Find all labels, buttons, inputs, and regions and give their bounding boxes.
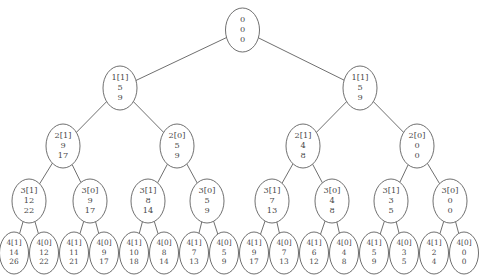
tree-node[interactable]: 3[0]48 [315,179,349,223]
tree-node[interactable]: 4[0]917 [90,232,119,274]
tree-node[interactable]: 1[1]59 [103,66,137,110]
node-label-value2: 8 [300,150,305,160]
tree-edge [321,221,326,234]
node-label-level: 3[1] [140,185,157,195]
tree-edge [282,164,293,183]
node-label-level: 4[0] [96,238,111,247]
node-label-value1: 10 [129,248,139,257]
tree-node[interactable]: 000 [226,8,260,52]
tree-node[interactable]: 3[1]1222 [12,179,46,223]
node-label-value1: 11 [69,248,78,257]
node-label-value2: 9 [117,92,122,102]
tree-node[interactable]: 4[1]1426 [0,232,29,274]
tree-node[interactable]: 4[1]612 [300,232,329,274]
tree-node[interactable]: 3[1]35 [374,179,408,223]
tree-node[interactable]: 4[1]24 [420,232,449,274]
tree-diagram-canvas: 0001[1]591[1]592[1]9172[0]592[1]482[0]00… [0,0,485,280]
tree-node[interactable]: 3[0]59 [190,179,224,223]
tree-edge [258,38,344,80]
tree-node[interactable]: 1[1]59 [343,66,377,110]
node-label-level: 3[0] [324,185,341,195]
node-label-level: 1[1] [112,72,129,82]
tree-node[interactable]: 3[1]814 [131,179,165,223]
tree-node[interactable]: 2[0]59 [160,124,194,168]
tree-node[interactable]: 4[1]713 [180,232,209,274]
node-label-value1: 3 [388,195,393,205]
node-label-value2: 13 [189,257,199,266]
node-label-level: 3[1] [383,185,400,195]
node-label-value1: 9 [102,248,107,257]
node-label-level: 3[0] [442,185,459,195]
tree-node[interactable]: 4[1]1018 [120,232,149,274]
tree-edge [20,222,23,234]
node-label-value2: 14 [143,205,153,215]
node-label-level: 3[0] [82,185,99,195]
node-label-value1: 2 [432,248,437,257]
node-label-level: 4[1] [126,238,141,247]
tree-node[interactable]: 3[0]00 [433,179,467,223]
node-label-value2: 9 [372,257,377,266]
binary-tree-svg: 0001[1]591[1]592[1]9172[0]592[1]482[0]00… [0,0,485,280]
node-label-level: 2[0] [169,130,186,140]
node-label-value2: 8 [329,205,334,215]
node-label-value2: 18 [129,257,139,266]
tree-node[interactable]: 2[1]917 [46,124,80,168]
tree-edge [316,102,346,133]
node-label-value1: 7 [282,248,287,257]
tree-edge [154,221,158,233]
node-label-level: 4[0] [216,238,231,247]
node-label-value1: 5 [357,82,362,92]
tree-edge [427,163,439,183]
tree-node[interactable]: 4[0]00 [450,232,479,274]
tree-node[interactable]: 4[0]713 [270,232,299,274]
tree-node[interactable]: 4[0]814 [150,232,179,274]
tree-node[interactable]: 3[0]917 [73,179,107,223]
node-label-value1: 4 [342,248,347,257]
node-label-value2: 17 [249,257,259,266]
node-label-level: 4[1] [246,238,261,247]
tree-edge [214,221,218,234]
node-label-value1: 9 [252,248,257,257]
tree-node[interactable]: 4[0]1222 [30,232,59,274]
tree-node[interactable]: 4[0]35 [390,232,419,274]
tree-node[interactable]: 4[0]59 [210,232,239,274]
tree-edge [199,222,202,233]
node-label-level: 4[1] [306,238,321,247]
node-label-value1: 0 [240,24,245,34]
node-label-value1: 14 [9,248,19,257]
node-label-value1: 7 [269,195,274,205]
node-label-value1: 12 [24,195,34,205]
tree-edge [139,222,142,234]
node-label-value2: 9 [222,257,227,266]
node-label-value1: 9 [60,140,65,150]
node-label-value1: 5 [117,82,122,92]
node-label-value1: 6 [312,248,317,257]
node-label-level: 4[1] [6,238,21,247]
node-label-value2: 22 [24,205,34,215]
node-label-level: 4[0] [396,238,411,247]
node-label-value2: 0 [414,150,419,160]
tree-node[interactable]: 4[1]917 [240,232,269,274]
tree-node[interactable]: 4[1]1121 [60,232,89,274]
node-label-value2: 8 [342,257,347,266]
tree-node[interactable]: 4[1]59 [360,232,389,274]
tree-edge [76,102,106,133]
node-label-value1: 9 [87,195,92,205]
node-label-value1: 5 [372,248,377,257]
tree-edge [158,164,168,183]
tree-node[interactable]: 4[0]48 [330,232,359,274]
tree-node[interactable]: 2[1]48 [286,124,320,168]
node-label-value2: 17 [85,205,95,215]
tree-edge [337,222,340,233]
node-label-value1: 3 [402,248,407,257]
node-label-value1: 5 [222,248,227,257]
node-label-value1: 8 [162,248,167,257]
node-label-value2: 5 [388,205,393,215]
tree-edge [440,221,444,233]
tree-node[interactable]: 2[0]00 [400,124,434,168]
tree-edge [373,102,403,133]
tree-node[interactable]: 3[1]713 [255,179,289,223]
node-label-level: 4[0] [156,238,171,247]
tree-edge [313,164,323,183]
node-label-level: 2[1] [295,130,312,140]
